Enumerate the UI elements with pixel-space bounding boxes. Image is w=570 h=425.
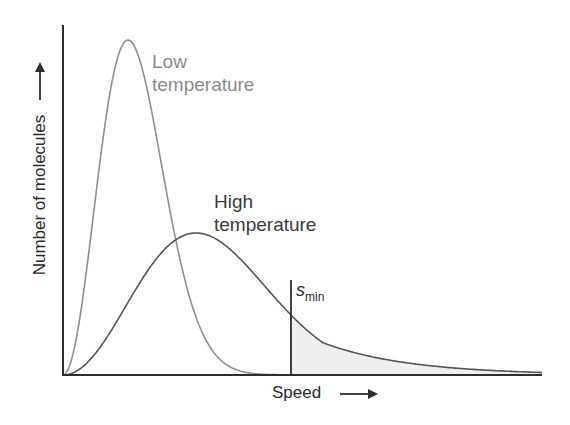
high-temp-label-line1: High <box>214 190 316 213</box>
y-axis-label: Number of molecules <box>30 115 50 276</box>
smin-symbol: s <box>296 280 305 300</box>
low-temp-label: Low temperature <box>152 50 254 96</box>
smin-label: smin <box>296 280 324 304</box>
x-arrow-icon <box>368 389 378 399</box>
high-temp-label-line2: temperature <box>214 213 316 236</box>
low-temp-label-line2: temperature <box>152 73 254 96</box>
low-temp-label-line1: Low <box>152 50 254 73</box>
smin-subscript: min <box>305 290 324 304</box>
high-temp-label: High temperature <box>214 190 316 236</box>
y-arrow-icon <box>35 62 45 72</box>
x-axis-label: Speed <box>272 383 321 403</box>
